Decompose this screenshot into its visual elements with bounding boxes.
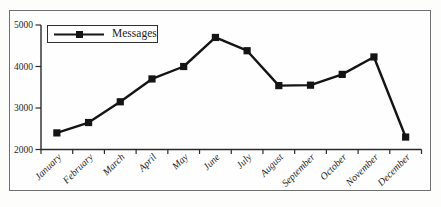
data-point-marker [370, 53, 377, 60]
x-axis-label: February [60, 151, 96, 187]
data-point-marker [244, 47, 251, 54]
data-point-marker [212, 34, 219, 41]
legend-line-marker-icon [53, 30, 105, 39]
messages-line-series [57, 37, 406, 137]
x-axis-label: January [32, 151, 63, 182]
y-axis-tick-label: 2000 [14, 145, 33, 155]
y-axis-tick-label: 3000 [14, 103, 33, 113]
x-axis-label: October [318, 151, 349, 182]
data-point-marker [339, 71, 346, 78]
x-axis-label: June [201, 151, 223, 173]
y-axis-tick-label: 4000 [14, 62, 33, 72]
legend-label: Messages [112, 28, 157, 40]
legend: Messages [47, 25, 158, 43]
data-point-marker [85, 119, 92, 126]
x-axis-label: March [100, 151, 127, 178]
x-axis-label: September [279, 151, 317, 189]
data-point-marker [180, 63, 187, 70]
data-point-marker [148, 75, 155, 82]
data-point-marker [307, 82, 314, 89]
x-axis-label: July [234, 151, 254, 171]
data-point-marker [275, 82, 282, 89]
data-point-marker [402, 133, 409, 140]
x-axis-label: December [375, 151, 413, 189]
x-axis-label: August [257, 151, 285, 179]
data-point-marker [53, 129, 60, 136]
data-point-marker [117, 98, 124, 105]
x-axis-label: November [343, 151, 381, 189]
x-axis-label: April [135, 151, 158, 174]
chart-screenshot: 2000300040005000JanuaryFebruaryMarchApri… [0, 0, 441, 207]
y-axis-tick-label: 5000 [14, 20, 33, 30]
x-axis-label: May [169, 151, 190, 172]
